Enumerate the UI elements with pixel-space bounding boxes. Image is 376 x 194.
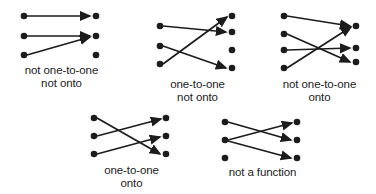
diagram-1-caption-line2: not onto [14, 77, 109, 90]
diagram-1-arrows [27, 16, 90, 55]
diagram-3-caption-line1: not one-to-one [272, 78, 367, 91]
diagram-4-caption-line1: one-to-one [84, 164, 179, 177]
diagram-5-caption: not a function [215, 166, 310, 179]
diagram-not-one-to-one-not-onto: not one-to-one not onto [14, 8, 109, 90]
function-diagrams-figure: not one-to-one not onto [0, 0, 376, 194]
diagram-5-graphic [215, 114, 310, 166]
diagram-5-arrows [228, 122, 292, 158]
diagram-2-graphic [150, 8, 245, 78]
diagram-4-caption-line2: onto [84, 177, 179, 190]
diagram-3-caption: not one-to-one onto [272, 78, 367, 104]
diagram-5-caption-line1: not a function [215, 166, 310, 179]
diagram-4-caption: one-to-one onto [84, 164, 179, 190]
diagram-2-caption: one-to-one not onto [150, 78, 245, 104]
diagram-3-caption-line2: onto [272, 91, 367, 104]
diagram-not-one-to-one-onto: not one-to-one onto [274, 8, 369, 104]
diagram-one-to-one-not-onto: one-to-one not onto [150, 8, 245, 104]
diagram-not-a-function: not a function [215, 114, 310, 179]
diagram-2-dots [157, 13, 236, 72]
diagram-3-graphic [274, 8, 369, 78]
diagram-3-arrows [287, 16, 351, 68]
diagram-1-caption-line1: not one-to-one [14, 64, 109, 77]
diagram-4-arrows [97, 118, 161, 154]
diagram-4-graphic [84, 110, 179, 164]
diagram-2-arrows [163, 17, 227, 68]
diagram-2-caption-line1: one-to-one [150, 78, 245, 91]
diagram-1-caption: not one-to-one not onto [14, 64, 109, 90]
diagram-2-caption-line2: not onto [150, 91, 245, 104]
diagram-one-to-one-onto: one-to-one onto [84, 110, 179, 190]
diagram-1-graphic [14, 8, 109, 64]
